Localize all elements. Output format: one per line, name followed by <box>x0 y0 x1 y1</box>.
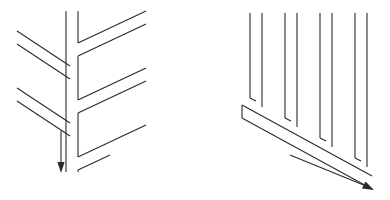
left-panel-chevron-figure <box>17 11 146 173</box>
right-branch-3-upper <box>78 125 146 157</box>
vertical-band-2 <box>285 13 297 127</box>
figure-canvas <box>0 0 390 200</box>
band-3-bottom-connector <box>320 138 326 141</box>
left-panel-down-arrow <box>57 131 64 173</box>
right-branch-band-1 <box>78 11 146 56</box>
down-arrow-head <box>57 162 64 173</box>
right-branch-2-upper <box>78 68 146 100</box>
vertical-band-4 <box>355 13 367 167</box>
vertical-band-3 <box>320 13 332 147</box>
spine-group <box>66 11 78 172</box>
band-2-bottom-connector <box>285 118 291 121</box>
down-right-arrow-head <box>362 182 374 191</box>
left-branch-band-1 <box>17 31 70 79</box>
diagonal-line-upper <box>242 105 372 176</box>
vertical-band-1 <box>250 13 262 107</box>
right-panel-vertical-bands-figure <box>242 13 374 190</box>
right-branch-band-2 <box>78 68 146 113</box>
right-branch-1-lower <box>78 24 146 56</box>
left-branch-2-lower <box>17 101 70 136</box>
left-branch-1-upper <box>17 31 70 66</box>
left-branch-2-upper <box>17 88 70 123</box>
right-panel-down-right-arrow <box>290 155 374 190</box>
down-right-arrow-shaft <box>290 155 366 186</box>
right-branch-band-3 <box>78 125 146 170</box>
band-1-bottom-connector <box>250 98 256 101</box>
left-branch-1-lower <box>17 44 70 79</box>
right-branch-2-lower <box>78 81 146 113</box>
diagonal-baseline-band <box>242 105 372 189</box>
diagonal-line-lower <box>242 118 372 189</box>
line-drawing-svg <box>0 0 390 200</box>
right-branch-1-upper <box>78 11 146 43</box>
band-4-bottom-connector <box>355 158 361 161</box>
right-branch-3-lower <box>78 155 110 170</box>
left-branch-band-2 <box>17 88 70 136</box>
